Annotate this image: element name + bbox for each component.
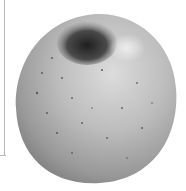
frame-border-line (4, 0, 5, 155)
apple-image (12, 8, 180, 186)
apple-illustration (12, 8, 180, 186)
frame-border-tick (0, 155, 6, 156)
